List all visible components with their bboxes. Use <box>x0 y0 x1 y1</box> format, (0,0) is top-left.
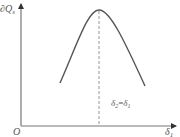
origin-label: O <box>13 126 20 137</box>
y-axis-label: ∂Qs <box>0 3 15 16</box>
peak-annotation: δ2=δ1 <box>111 98 130 109</box>
curve <box>60 10 145 86</box>
diagram-canvas: ∂Qs O δ1 δ2=δ1 <box>0 0 180 137</box>
x-axis-label: δ1 <box>165 126 173 137</box>
